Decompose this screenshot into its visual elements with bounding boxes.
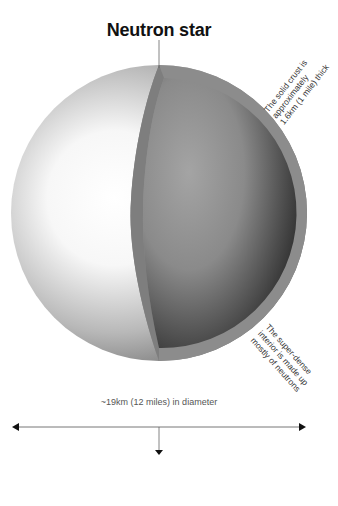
arrow-left-icon: [12, 423, 19, 431]
arrow-right-icon: [299, 423, 306, 431]
diameter-label: ~19km (12 miles) in diameter: [0, 397, 318, 407]
interior-core: [143, 78, 297, 348]
arrow-down-icon: [155, 450, 163, 455]
